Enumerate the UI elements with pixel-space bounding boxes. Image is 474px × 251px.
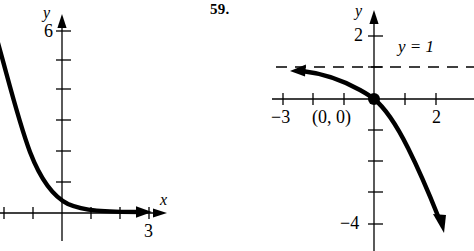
left-x-axis-label: x xyxy=(160,192,167,208)
right-origin-point-label: (0, 0) xyxy=(312,108,351,126)
right-y-tick-label-2: 2 xyxy=(354,26,363,44)
right-x-tick-label-2: 2 xyxy=(432,108,441,126)
right-y-ticks xyxy=(368,36,383,224)
left-graph-panel: y x 6 3 xyxy=(0,0,205,251)
left-x-tick-label-3: 3 xyxy=(144,222,153,240)
left-y-ticks xyxy=(56,31,71,182)
problem-number-label: 59. xyxy=(210,2,229,17)
right-origin-dot xyxy=(368,93,380,105)
left-y-tick-label-6: 6 xyxy=(44,22,53,40)
right-y-axis-label: y xyxy=(355,3,362,19)
left-y-axis xyxy=(57,14,66,241)
right-asymptote-label: y = 1 xyxy=(398,38,434,55)
left-y-axis-label: y xyxy=(43,5,50,21)
right-x-tick-label-minus-3: −3 xyxy=(271,108,290,126)
right-graph-panel: y 2 −4 −3 2 (0, 0) y = 1 xyxy=(250,0,474,251)
left-graph-plot xyxy=(0,0,205,251)
right-curve-down-arrowhead xyxy=(433,214,446,233)
right-curve xyxy=(302,71,438,216)
right-y-tick-label-minus-4: −4 xyxy=(340,214,359,232)
left-curve xyxy=(0,36,142,212)
figure-container: y x 6 3 59. xyxy=(0,0,474,251)
